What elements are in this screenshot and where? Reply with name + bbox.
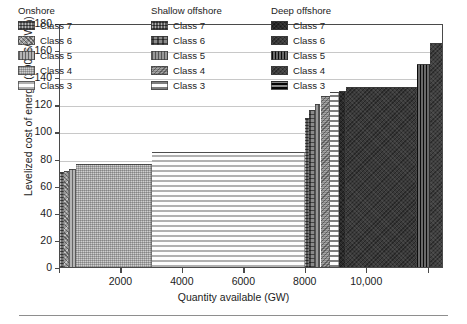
legend-swatch-icon (271, 66, 288, 75)
legend-item[interactable]: Class 3 (271, 78, 331, 93)
x-tick-mark (182, 268, 183, 273)
bar-step (346, 87, 417, 267)
legend-swatch-icon (18, 21, 35, 30)
legend-item[interactable]: Class 3 (151, 78, 222, 93)
legend-label: Class 6 (173, 33, 205, 48)
legend-swatch-icon (151, 36, 168, 45)
x-axis-label: Quantity available (GW) (0, 291, 467, 303)
bar-step (330, 92, 339, 267)
legend-item[interactable]: Class 5 (18, 48, 72, 63)
legend-label: Class 4 (173, 63, 205, 78)
legend-heading: Onshore (18, 4, 72, 18)
x-tick-label: 8000 (275, 276, 335, 287)
bar-step (417, 64, 431, 267)
x-tick-mark (305, 268, 306, 273)
legend-label: Class 3 (173, 78, 205, 93)
legend-label: Class 3 (40, 78, 72, 93)
legend-item[interactable]: Class 3 (18, 78, 72, 93)
legend-swatch-icon (271, 51, 288, 60)
legend-swatch-icon (151, 66, 168, 75)
legend-heading: Deep offshore (271, 4, 331, 18)
gridline (60, 52, 442, 53)
x-tick-label: 4000 (152, 276, 212, 287)
legend-column-onshore: OnshoreClass 7Class 6Class 5Class 4Class… (18, 4, 72, 93)
legend-label: Class 7 (40, 18, 72, 33)
wind-supply-curve-figure: 020406080100120140160180 Levelized cost … (0, 0, 467, 324)
plot-area (59, 24, 443, 268)
legend-label: Class 5 (173, 48, 205, 63)
y-tick-label: 0 (0, 262, 52, 272)
x-tick-mark (120, 268, 121, 273)
legend-label: Class 5 (40, 48, 72, 63)
legend-swatch-icon (151, 81, 168, 90)
x-tick-mark (243, 268, 244, 273)
legend-column-shallow-offshore: Shallow offshoreClass 7Class 6Class 5Cla… (151, 4, 222, 93)
legend-item[interactable]: Class 4 (151, 63, 222, 78)
legend-item[interactable]: Class 5 (271, 48, 331, 63)
legend-label: Class 7 (173, 18, 205, 33)
legend-swatch-icon (151, 51, 168, 60)
legend-label: Class 3 (293, 78, 325, 93)
legend-swatch-icon (151, 21, 168, 30)
y-tick-label: 20 (0, 235, 52, 245)
x-tick-mark (59, 268, 60, 273)
legend-swatch-icon (271, 81, 288, 90)
legend-swatch-icon (271, 21, 288, 30)
legend-swatch-icon (271, 36, 288, 45)
bar-step (430, 43, 443, 267)
legend-item[interactable]: Class 7 (18, 18, 72, 33)
legend-item[interactable]: Class 4 (18, 63, 72, 78)
legend-item[interactable]: Class 7 (151, 18, 222, 33)
bar-step (339, 91, 346, 267)
x-tick-mark (428, 268, 429, 273)
legend-label: Class 4 (293, 63, 325, 78)
legend-label: Class 6 (40, 33, 72, 48)
bar-step (76, 164, 152, 267)
legend-swatch-icon (18, 36, 35, 45)
bar-step (321, 96, 330, 267)
legend-swatch-icon (18, 66, 35, 75)
legend-label: Class 4 (40, 63, 72, 78)
gridline (60, 79, 442, 80)
legend-label: Class 7 (293, 18, 325, 33)
legend-item[interactable]: Class 6 (151, 33, 222, 48)
legend-item[interactable]: Class 6 (271, 33, 331, 48)
bar-step (69, 169, 76, 267)
legend-item[interactable]: Class 6 (18, 33, 72, 48)
legend-column-deep-offshore: Deep offshoreClass 7Class 6Class 5Class … (271, 4, 331, 93)
x-tick-label: 2000 (90, 276, 150, 287)
legend-label: Class 5 (293, 48, 325, 63)
legend-swatch-icon (18, 81, 35, 90)
legend-item[interactable]: Class 5 (151, 48, 222, 63)
figure-bottom-rule (19, 315, 448, 316)
legend-item[interactable]: Class 4 (271, 63, 331, 78)
x-tick-label: 10,000 (336, 276, 396, 287)
x-tick-mark (366, 268, 367, 273)
x-tick-label: 6000 (213, 276, 273, 287)
legend-swatch-icon (18, 51, 35, 60)
bar-step (152, 152, 306, 267)
legend-label: Class 6 (293, 33, 325, 48)
legend-heading: Shallow offshore (151, 4, 222, 18)
legend-item[interactable]: Class 7 (271, 18, 331, 33)
